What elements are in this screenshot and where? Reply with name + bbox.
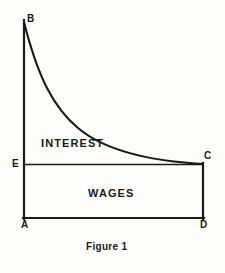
figure-caption: Figure 1 (86, 241, 127, 252)
region-label-interest: INTEREST (41, 137, 104, 149)
vertex-label-c: C (204, 151, 211, 161)
vertex-label-b: B (27, 14, 34, 24)
vertex-label-e: E (12, 159, 19, 169)
figure-container: B A D E C INTEREST WAGES Figure 1 (0, 0, 225, 273)
vertex-label-d: D (200, 220, 207, 230)
figure-diagram (0, 0, 225, 273)
region-label-wages: WAGES (88, 187, 134, 199)
vertex-label-a: A (21, 220, 28, 230)
